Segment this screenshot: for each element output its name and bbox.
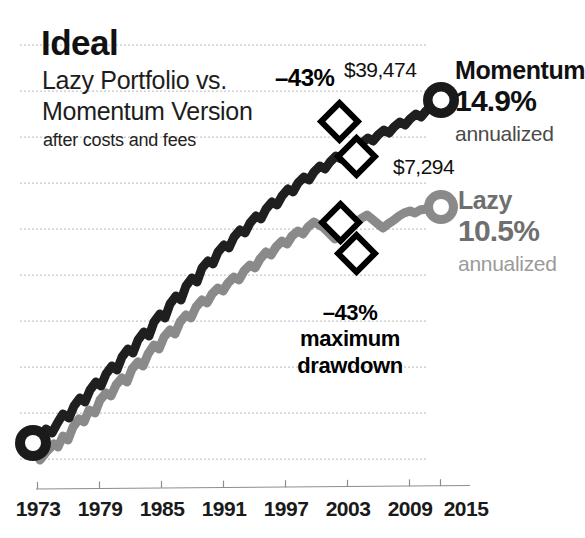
legend-lazy-name: Lazy <box>458 188 512 213</box>
page-title: Ideal <box>41 25 118 60</box>
maxdd-pct: –43% <box>323 302 378 324</box>
endpoint-marker-lazy <box>424 190 458 224</box>
x-tick-label: 2015 <box>444 497 489 521</box>
x-tick-label: 1991 <box>202 497 247 521</box>
legend-momentum-note: annualized <box>455 123 554 144</box>
maxdd-line-1: maximum <box>300 328 400 350</box>
x-tick-label: 2003 <box>326 497 371 521</box>
legend-lazy-note: annualized <box>458 253 557 274</box>
lazy-end-value-label: $7,294 <box>393 156 454 177</box>
x-tick-label: 1979 <box>78 497 123 521</box>
legend-lazy-value: 10.5% <box>458 216 539 246</box>
legend-momentum-name: Momentum <box>455 58 585 83</box>
x-tick-label: 1973 <box>16 497 61 521</box>
legend-momentum-value: 14.9% <box>455 86 536 116</box>
momentum-end-value-label: $39,474 <box>344 59 416 80</box>
x-tick-label: 1997 <box>264 497 309 521</box>
series-momentum <box>33 101 437 443</box>
subtitle-line-1: Lazy Portfolio vs. <box>42 68 227 93</box>
maxdd-line-2: drawdown <box>297 355 403 377</box>
drawdown-callout: –43% <box>275 66 334 90</box>
endpoint-marker-momentum <box>423 82 459 118</box>
subtitle-line-3: after costs and fees <box>43 131 196 149</box>
drawdown-marker-momentum-peak <box>321 103 358 140</box>
x-tick-label: 2009 <box>388 497 433 521</box>
subtitle-line-2: Momentum Version <box>42 99 253 124</box>
x-tick-label: 1985 <box>140 497 185 521</box>
endpoint-marker-start <box>15 425 51 461</box>
